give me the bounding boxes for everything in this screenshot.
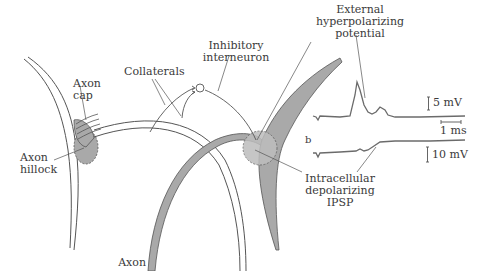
label-line: IPSP [290,197,390,209]
label-line: hillock [20,164,57,176]
label-axon: Axon [112,257,146,269]
label-axon-hillock: Axon hillock [20,152,57,176]
label-scale-10mv: 10 mV [432,149,468,161]
scale-bar-5mv [427,97,430,110]
label-intracellular-depolarizing: Intracellular depolarizing IPSP [290,173,390,209]
label-axon-cap: Axon cap [73,78,101,102]
label-line: potential [300,28,420,40]
label-line: interneuron [196,52,276,64]
leader-external-trace [356,35,365,98]
leader-collaterals-1 [152,79,165,105]
label-panel-b: b [305,134,311,146]
neuron-inhibition-diagram: External hyperpolarizing potential Inhib… [0,0,486,271]
scale-bar-10mv [426,147,429,162]
label-external-hyperpolarizing: External hyperpolarizing potential [300,4,420,40]
label-collaterals: Collaterals [124,66,185,78]
label-scale-1ms: 1 ms [440,125,467,137]
leader-collaterals-2 [155,79,181,116]
label-line: cap [73,90,101,102]
label-scale-5mv: 5 mV [433,97,462,109]
right-hillock-shape [243,131,277,165]
collaterals [150,84,256,140]
label-inhibitory-interneuron: Inhibitory interneuron [196,40,276,64]
